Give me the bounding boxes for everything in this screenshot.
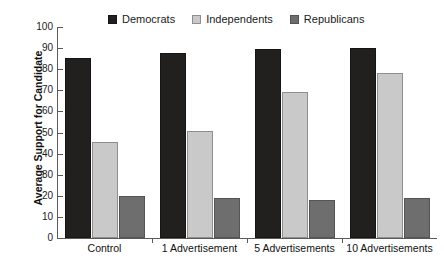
bar-independents-5-advertisements[interactable]	[282, 92, 308, 238]
legend-item-republicans: Republicans	[290, 14, 365, 25]
bar-republicans-5-advertisements[interactable]	[309, 200, 335, 238]
y-axis-tick-label: 70	[13, 83, 53, 96]
chart-legend: Democrats Independents Republicans	[108, 11, 364, 27]
y-axis-tick: 80	[5, 69, 63, 70]
y-axis-tick-label: 50	[13, 126, 53, 139]
y-axis-tick-mark	[58, 238, 63, 239]
bar-democrats-5-advertisements[interactable]	[255, 49, 281, 238]
y-axis-tick: 30	[5, 175, 63, 176]
y-axis-tick-label: 0	[13, 231, 53, 244]
y-axis-tick-label: 30	[13, 168, 53, 181]
bar-group	[247, 27, 342, 238]
bar-republicans-10-advertisements[interactable]	[404, 198, 430, 238]
y-axis-tick: 50	[5, 133, 63, 134]
bar-independents-control[interactable]	[92, 142, 118, 238]
bar-democrats-10-advertisements[interactable]	[350, 48, 376, 238]
legend-label-democrats: Democrats	[122, 14, 175, 25]
y-axis-tick-label: 10	[13, 210, 53, 223]
y-axis-tick: 90	[5, 48, 63, 49]
y-axis-tick-label: 20	[13, 189, 53, 202]
x-axis-category-label: 1 Advertisement	[152, 242, 247, 254]
y-axis-tick: 10	[5, 217, 63, 218]
y-axis-tick-label: 80	[13, 62, 53, 75]
legend-swatch-democrats	[108, 15, 117, 24]
bar-independents-10-advertisements[interactable]	[377, 73, 403, 238]
bar-republicans-1-advertisement[interactable]	[214, 198, 240, 238]
bar-independents-1-advertisement[interactable]	[187, 131, 213, 238]
legend-item-independents: Independents	[192, 14, 273, 25]
x-axis-category-label: 10 Advertisements	[342, 242, 437, 254]
bar-democrats-control[interactable]	[65, 58, 91, 238]
plot-area: 0102030405060708090100	[57, 27, 437, 238]
y-axis-tick-label: 90	[13, 41, 53, 54]
bar-group	[342, 27, 437, 238]
bar-group	[57, 27, 152, 238]
legend-label-independents: Independents	[206, 14, 273, 25]
bar-democrats-1-advertisement[interactable]	[160, 53, 186, 238]
bar-group	[152, 27, 247, 238]
y-axis-tick: 0	[5, 238, 63, 239]
legend-item-democrats: Democrats	[108, 14, 175, 25]
y-axis-tick: 40	[5, 154, 63, 155]
y-axis-tick-label: 40	[13, 147, 53, 160]
y-axis-tick-label: 60	[13, 104, 53, 117]
legend-swatch-republicans	[290, 15, 299, 24]
x-axis-category-label: 5 Advertisements	[247, 242, 342, 254]
bar-chart-figure: Democrats Independents Republicans Avera…	[0, 0, 444, 271]
y-axis-tick: 70	[5, 90, 63, 91]
y-axis-tick: 60	[5, 111, 63, 112]
legend-label-republicans: Republicans	[304, 14, 365, 25]
bar-republicans-control[interactable]	[119, 196, 145, 238]
x-axis-category-label: Control	[57, 242, 152, 254]
legend-swatch-independents	[192, 15, 201, 24]
y-axis-tick: 20	[5, 196, 63, 197]
y-axis-tick-label: 100	[13, 20, 53, 33]
y-axis-tick: 100	[5, 27, 63, 28]
